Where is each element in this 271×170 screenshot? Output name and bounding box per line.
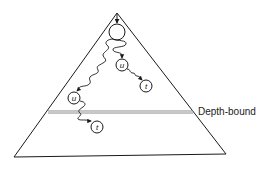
root-node <box>109 24 125 40</box>
node-t2: t <box>91 121 103 133</box>
node-u1-label: u <box>120 61 125 70</box>
path-root-to-u1 <box>112 39 126 58</box>
node-u1: u <box>116 59 128 71</box>
node-u2: u <box>68 92 80 104</box>
node-u2-label: u <box>72 94 77 103</box>
depth-bound-label: Depth-bound <box>198 106 256 117</box>
node-t1: t <box>140 80 152 92</box>
search-tree-diagram: Depth-bound u t u t <box>0 0 271 170</box>
path-u1-to-t1 <box>127 69 142 80</box>
path-root-to-u2 <box>77 39 112 91</box>
depth-bound-line <box>48 111 193 113</box>
